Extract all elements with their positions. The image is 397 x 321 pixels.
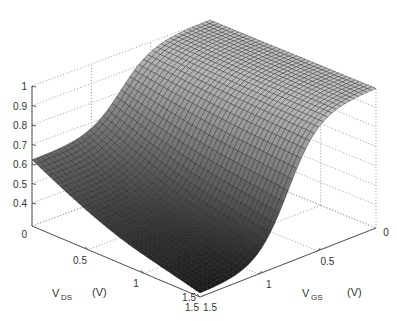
z-tick-mark bbox=[32, 86, 36, 87]
x-axis-label-sub: DS bbox=[61, 293, 72, 302]
y-tick-label: 0 bbox=[383, 227, 389, 238]
z-tick-label: 0.7 bbox=[13, 140, 27, 151]
y-axis-label-unit: (V) bbox=[347, 286, 362, 298]
z-tick-label: 0 bbox=[21, 229, 27, 240]
z-tick-label: 1 bbox=[21, 81, 27, 92]
x-axis-label-main: V bbox=[52, 287, 60, 299]
y-axis-label-main: V bbox=[302, 287, 310, 299]
surface-mesh bbox=[32, 20, 376, 293]
x-axis-label-unit: (V) bbox=[92, 286, 107, 298]
z-tick-mark bbox=[32, 164, 36, 165]
z-tick-label: 0.6 bbox=[13, 159, 27, 170]
x-tick-label: 1.5 bbox=[185, 302, 199, 313]
z-tick-mark bbox=[32, 125, 36, 126]
surface-chart: 00.40.50.60.70.80.910.511.500.511.51.5 V… bbox=[0, 0, 397, 321]
z-tick-mark bbox=[32, 203, 36, 204]
x-tick-label: 1 bbox=[133, 278, 139, 289]
y-axis-label: V GS (V) bbox=[302, 286, 362, 302]
z-tick-mark bbox=[32, 145, 36, 146]
z-tick-mark bbox=[32, 184, 36, 185]
y-tick-label: 0.5 bbox=[320, 256, 334, 267]
z-tick-label: 0.9 bbox=[13, 101, 27, 112]
x-tick-label: 0.5 bbox=[73, 255, 87, 266]
x-axis-label: V DS (V) bbox=[52, 286, 107, 302]
z-tick-label: 0.5 bbox=[13, 179, 27, 190]
y-tick-label: 1 bbox=[266, 279, 272, 290]
y-axis-label-sub: GS bbox=[311, 293, 323, 302]
z-tick-mark bbox=[32, 106, 36, 107]
y-tick-label: 1.5 bbox=[203, 302, 217, 313]
z-tick-label: 0.4 bbox=[13, 198, 27, 209]
x-tick-label-end: 1.5 bbox=[182, 292, 196, 303]
z-tick-label: 0.8 bbox=[13, 120, 27, 131]
